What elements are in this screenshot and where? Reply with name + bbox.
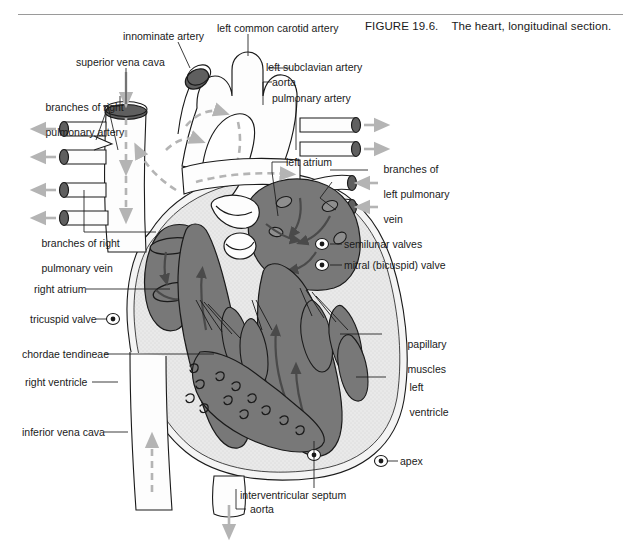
left-pulmonary-artery-branch-1	[300, 118, 356, 132]
label-pulmonary-artery: pulmonary artery	[272, 92, 351, 105]
label-apex: apex	[400, 455, 423, 468]
label-right-atrium: right atrium	[34, 283, 87, 296]
right-pulmonary-vein-branch-2	[64, 211, 108, 225]
label-mitral-bicuspid-valve: mitral (bicuspid) valve	[344, 259, 446, 272]
label-line: papillary	[408, 338, 447, 350]
label-innominate-artery: innominate artery	[123, 30, 204, 43]
right-pulmonary-artery-branch-2	[64, 150, 106, 164]
innominate-artery-trunk	[178, 88, 189, 134]
left-pulmonary-vein-branch-1-lumen	[348, 176, 357, 191]
label-superior-vena-cava: superior vena cava	[76, 56, 165, 69]
label-left-common-carotid-artery: left common carotid artery	[217, 22, 338, 35]
apex-marker	[375, 456, 388, 467]
right-pulmonary-vein-branch-1	[64, 183, 106, 197]
label-branches-of-right-pulmonary-artery: branches of right pulmonary artery	[28, 88, 124, 151]
label-right-ventricle: right ventricle	[25, 376, 87, 389]
label-line: left pulmonary	[384, 188, 450, 200]
label-line: vein	[384, 213, 403, 225]
label-line: pulmonary artery	[46, 126, 125, 138]
left-pulmonary-artery-branch-1-lumen	[352, 118, 361, 133]
label-inferior-vena-cava: inferior vena cava	[22, 426, 105, 439]
right-pulmonary-artery-branch-2-lumen	[60, 150, 69, 165]
label-tricuspid-valve: tricuspid valve	[30, 313, 97, 326]
descending-aorta-vessel	[213, 476, 246, 532]
label-interventricular-septum: interventricular septum	[240, 489, 346, 502]
leader-innominate-artery	[178, 42, 190, 68]
figure-page: FIGURE 19.6.The heart, longitudinal sect…	[0, 0, 623, 542]
label-aorta-descending: aorta	[250, 503, 274, 516]
label-line: branches of	[384, 163, 439, 175]
left-pulmonary-artery-branch-2-lumen	[352, 142, 361, 157]
label-left-ventricle: left ventricle	[392, 368, 449, 431]
label-line: branches of right	[42, 237, 120, 249]
tricuspid-valve-marker	[107, 314, 120, 325]
label-left-atrium: left atrium	[286, 156, 332, 169]
label-line: branches of right	[46, 101, 124, 113]
label-line: left	[410, 381, 424, 393]
label-semilunar-valves: semilunar valves	[344, 238, 422, 251]
label-chordae-tendineae: chordae tendineae	[22, 348, 109, 361]
mitral-valve-marker	[316, 260, 329, 271]
label-branches-of-right-pulmonary-vein: branches of right pulmonary vein	[24, 224, 120, 287]
label-aorta-arch: aorta	[272, 76, 296, 89]
right-pulmonary-vein-branch-1-lumen	[60, 183, 69, 198]
label-left-subclavian-artery: left subclavian artery	[266, 61, 362, 74]
label-line: ventricle	[410, 406, 449, 418]
label-branches-of-left-pulmonary-vein: branches of left pulmonary vein	[366, 150, 449, 238]
semilunar-valve-marker	[316, 239, 329, 250]
label-line: pulmonary vein	[42, 262, 113, 274]
left-pulmonary-artery-branch-2	[300, 142, 356, 156]
inferior-vena-cava-vessel	[130, 352, 172, 510]
